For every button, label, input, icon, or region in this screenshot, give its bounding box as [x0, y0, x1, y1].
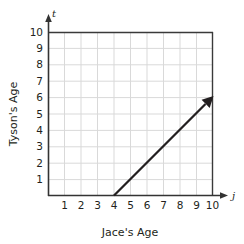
y-tick-labels: 1 2 3 4 5 6 7 8 9 10	[30, 26, 44, 185]
x-axis-variable-label: j	[230, 190, 235, 201]
y-tick-label: 3	[36, 140, 43, 152]
x-tick-label: 4	[111, 199, 118, 211]
x-tick-label: 7	[160, 199, 167, 211]
y-tick-label: 4	[36, 124, 43, 136]
y-axis-arrowhead-icon	[45, 14, 52, 22]
y-tick-label: 8	[36, 58, 43, 70]
x-tick-label: 2	[78, 199, 85, 211]
y-axis-variable-label: t	[52, 8, 57, 19]
x-tick-label: 6	[144, 199, 151, 211]
x-tick-label: 3	[94, 199, 101, 211]
x-tick-label: 5	[127, 199, 134, 211]
x-tick-label: 10	[206, 199, 219, 211]
x-tick-label: 9	[193, 199, 200, 211]
x-axis-title: Jace's Age	[101, 226, 159, 239]
y-tick-label: 2	[36, 157, 43, 169]
y-axis-title: Tyson's Age	[7, 82, 20, 148]
x-tick-label: 1	[61, 199, 68, 211]
x-axis-arrowhead-icon	[220, 192, 228, 199]
y-tick-label: 9	[36, 42, 43, 54]
graph-canvas: t j 1 2 3 4 5 6 7 8 9 10 1 2 3 4 5 6 7 8…	[0, 0, 244, 244]
y-tick-label: 1	[36, 173, 43, 185]
x-tick-label: 8	[177, 199, 184, 211]
y-tick-label: 10	[30, 26, 43, 38]
y-tick-label: 7	[36, 75, 43, 87]
y-tick-label: 5	[36, 108, 43, 120]
x-tick-labels: 1 2 3 4 5 6 7 8 9 10	[61, 199, 219, 211]
y-tick-label: 6	[36, 91, 43, 103]
coordinate-graph: t j 1 2 3 4 5 6 7 8 9 10 1 2 3 4 5 6 7 8…	[0, 0, 244, 244]
